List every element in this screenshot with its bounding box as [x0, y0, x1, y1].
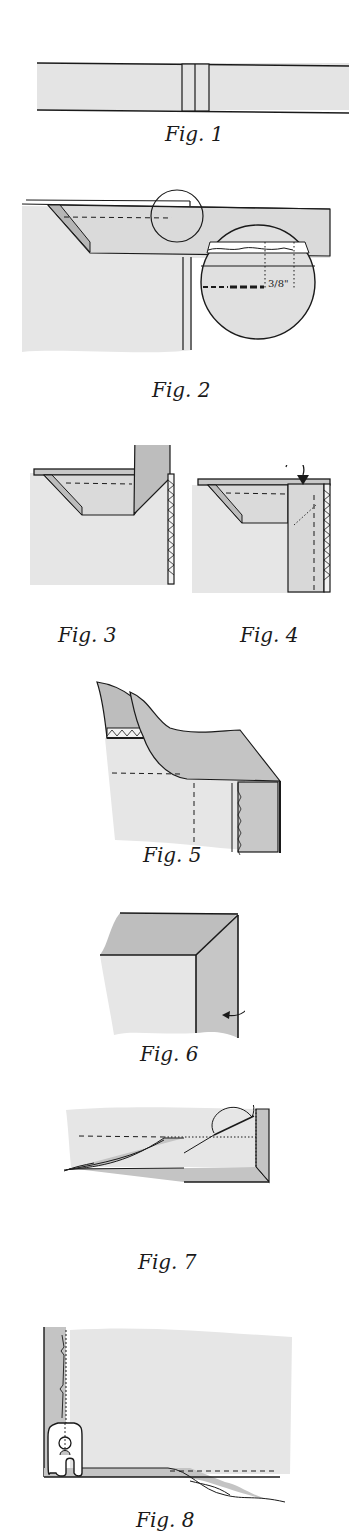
figure-1 — [0, 55, 349, 115]
figure-8-caption: Fig. 8 — [136, 1508, 195, 1532]
figure-2-annotation: 3/8" — [268, 278, 289, 289]
mitered-corner-illustration — [0, 180, 349, 360]
binding-strip-illustration — [0, 55, 349, 115]
figure-3 — [0, 445, 180, 595]
binding-fold-up-illustration — [0, 445, 180, 595]
figure-4-caption: Fig. 4 — [240, 623, 299, 647]
machine-stitching-binding-illustration — [40, 1325, 300, 1505]
hand-stitching-binding-illustration — [64, 1105, 279, 1255]
figure-6 — [100, 910, 245, 1045]
figure-7 — [64, 1105, 279, 1255]
figure-5-caption: Fig. 5 — [143, 843, 202, 867]
folded-corner-illustration — [100, 910, 245, 1045]
figure-2-caption: Fig. 2 — [152, 378, 211, 402]
figure-7-caption: Fig. 7 — [138, 1250, 197, 1274]
figure-1-caption: Fig. 1 — [165, 122, 224, 146]
figure-5 — [95, 680, 295, 855]
figure-8 — [40, 1325, 300, 1505]
binding-corner-turn-illustration — [95, 680, 295, 855]
binding-fold-down-illustration — [190, 465, 340, 595]
figure-2 — [0, 180, 349, 360]
figure-4 — [190, 465, 340, 595]
figure-3-caption: Fig. 3 — [58, 623, 117, 647]
figure-6-caption: Fig. 6 — [140, 1042, 199, 1066]
